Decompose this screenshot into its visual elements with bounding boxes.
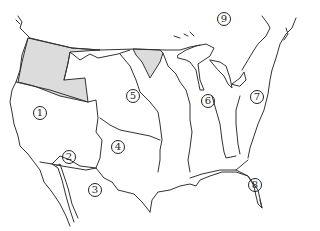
region-label-2: 2 [62,150,76,164]
region-label-8: 8 [248,178,262,192]
red-river-basin-region [133,49,163,78]
region-label-1: 1 [33,106,47,120]
region-label-6: 6 [201,94,215,108]
region-label-5: 5 [126,89,140,103]
territorial-map [0,0,320,231]
gulf-coast [150,172,262,212]
region-label-7: 7 [250,90,264,104]
region-label-4: 4 [111,140,125,154]
region-label-9: 9 [217,12,231,26]
region-label-3: 3 [88,183,102,197]
great-lakes [178,44,246,90]
atlantic-coast [248,18,296,158]
